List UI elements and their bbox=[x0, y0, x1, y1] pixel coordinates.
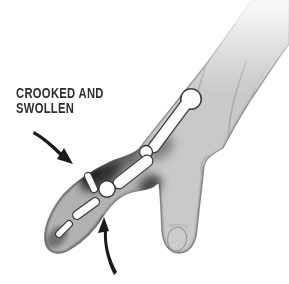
lower-pointer-arrow bbox=[98, 217, 117, 275]
annotation-line-1: CROOKED AND bbox=[16, 86, 104, 101]
arm-fade-overlay bbox=[120, 0, 289, 96]
figure-canvas: CROOKED AND SWOLLEN bbox=[0, 0, 289, 284]
upper-pointer-arrow bbox=[33, 131, 73, 164]
annotation-label: CROOKED AND SWOLLEN bbox=[16, 86, 104, 116]
annotation-line-2: SWOLLEN bbox=[16, 101, 104, 116]
hand-illustration-svg bbox=[0, 0, 289, 284]
